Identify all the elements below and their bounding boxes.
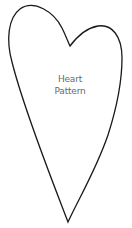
heart-shape xyxy=(9,5,122,222)
pattern-title-line1: Heart xyxy=(40,73,100,85)
heart-outline-icon xyxy=(0,0,132,228)
pattern-label: Heart Pattern xyxy=(40,73,100,97)
pattern-title-line2: Pattern xyxy=(40,85,100,97)
